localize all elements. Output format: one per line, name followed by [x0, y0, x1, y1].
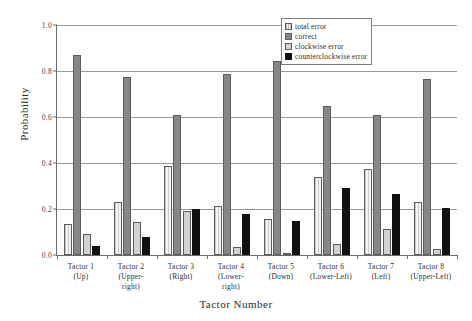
- x-tick-label: Tactor 8(Upper-Left): [400, 262, 462, 282]
- legend-swatch-icon: [285, 43, 292, 50]
- x-tick-mark: [157, 255, 158, 259]
- bar: [233, 247, 241, 255]
- bar: [373, 115, 381, 255]
- bar: [192, 209, 200, 255]
- legend-item: counterclockwise error: [285, 51, 367, 61]
- legend-item: clockwise error: [285, 41, 367, 51]
- y-tick-label: 0.2: [42, 205, 52, 214]
- x-tick-label-line: right): [100, 282, 162, 292]
- x-tick-mark: [107, 255, 108, 259]
- legend-item: total error: [285, 21, 367, 31]
- bar: [123, 77, 131, 255]
- bar: [323, 106, 331, 256]
- legend-label: counterclockwise error: [295, 52, 367, 61]
- legend-swatch-icon: [285, 33, 292, 40]
- x-tick-mark: [257, 255, 258, 259]
- bar: [214, 206, 222, 255]
- legend-label: total error: [295, 22, 326, 31]
- bar: [83, 234, 91, 255]
- bar: [242, 214, 250, 255]
- bar: [114, 202, 122, 255]
- x-tick-label-line: Tactor 8: [400, 262, 462, 272]
- bar: [433, 249, 441, 255]
- bar-chart-figure: Probability 0.00.20.40.60.81.0 Tactor 1(…: [0, 0, 472, 321]
- y-tick-label: 0.4: [42, 159, 52, 168]
- bar-group: [407, 25, 457, 255]
- bar-group: [107, 25, 157, 255]
- bar: [164, 166, 172, 255]
- x-tick-mark: [357, 255, 358, 259]
- legend-swatch-icon: [285, 53, 292, 60]
- legend-swatch-icon: [285, 23, 292, 30]
- bar: [333, 244, 341, 256]
- bar: [383, 229, 391, 255]
- y-tick-label: 1.0: [42, 21, 52, 30]
- bar: [273, 61, 281, 255]
- bar-group: [207, 25, 257, 255]
- x-axis-title: Tactor Number: [0, 298, 472, 310]
- bar: [223, 74, 231, 255]
- y-axis-title: Probability: [18, 44, 30, 184]
- bar: [264, 219, 272, 255]
- bar: [414, 202, 422, 255]
- bar: [342, 188, 350, 255]
- x-tick-mark: [407, 255, 408, 259]
- bar: [423, 79, 431, 255]
- y-tick-label: 0.8: [42, 67, 52, 76]
- bar: [442, 208, 450, 255]
- x-tick-mark: [457, 255, 458, 259]
- chart-legend: total errorcorrectclockwise errorcounter…: [281, 18, 372, 65]
- y-tick-label: 0.6: [42, 113, 52, 122]
- bar-group: [57, 25, 107, 255]
- bar: [392, 194, 400, 255]
- y-tick-label: 0.0: [42, 251, 52, 260]
- x-tick-label-line: (Upper-Left): [400, 272, 462, 282]
- x-tick-mark: [207, 255, 208, 259]
- bar: [292, 221, 300, 255]
- bar: [283, 253, 291, 255]
- bar: [364, 169, 372, 255]
- bar: [64, 224, 72, 255]
- bar: [142, 237, 150, 255]
- bar: [173, 115, 181, 255]
- legend-label: correct: [295, 32, 317, 41]
- x-tick-mark: [307, 255, 308, 259]
- bar-group: [157, 25, 207, 255]
- bar: [183, 211, 191, 255]
- bar: [73, 55, 81, 255]
- legend-label: clockwise error: [295, 42, 344, 51]
- x-tick-label-line: right): [200, 282, 262, 292]
- bar: [92, 246, 100, 255]
- legend-item: correct: [285, 31, 367, 41]
- plot-area: 0.00.20.40.60.81.0: [56, 25, 457, 256]
- bar: [314, 177, 322, 255]
- bar: [133, 222, 141, 255]
- x-tick-mark: [57, 255, 58, 259]
